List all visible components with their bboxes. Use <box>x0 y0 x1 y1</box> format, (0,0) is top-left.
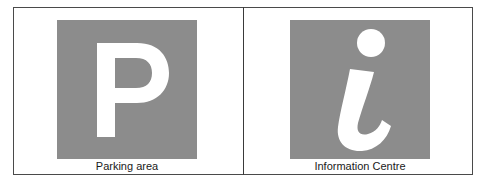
column-divider <box>243 7 244 175</box>
parking-icon <box>57 20 197 159</box>
parking-caption: Parking area <box>57 160 197 173</box>
information-caption: Information Centre <box>290 160 430 173</box>
information-sign <box>290 20 430 159</box>
parking-sign <box>57 20 197 159</box>
faint-bleed-through-text <box>30 180 190 184</box>
information-icon <box>290 20 430 159</box>
